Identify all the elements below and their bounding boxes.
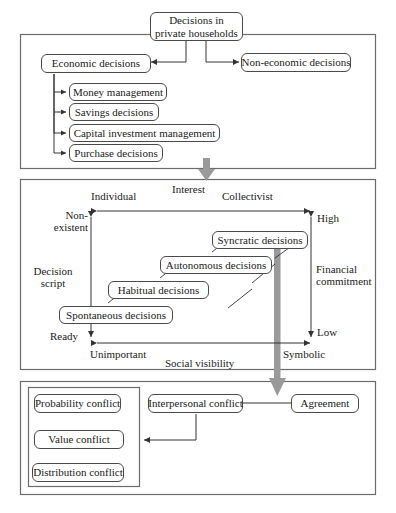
node-label: Spontaneous decisions [66, 309, 166, 321]
node-money-management[interactable]: Money management [69, 83, 167, 101]
node-label: Value conflict [48, 433, 109, 445]
axis-tick-non-existent: Non- existent [44, 209, 88, 233]
node-distribution-conflict[interactable]: Distribution conflict [32, 463, 124, 482]
node-label: Purchase decisions [74, 147, 157, 159]
axis-label-decision-script: Decision script [20, 265, 86, 289]
node-label: Savings decisions [75, 106, 154, 118]
diagram-figure: Decisions in private households Economic… [0, 0, 396, 513]
node-spontaneous-decisions[interactable]: Spontaneous decisions [59, 306, 173, 324]
node-label: Autonomous decisions [166, 259, 267, 271]
node-habitual-decisions[interactable]: Habitual decisions [108, 281, 209, 299]
node-label: Probability conflict [35, 397, 120, 409]
node-economic-decisions[interactable]: Economic decisions [41, 54, 151, 73]
axis-tick-non-existent-line1: Non- [65, 209, 88, 221]
axis-tick-symbolic: Symbolic [283, 348, 325, 360]
node-label: Agreement [301, 397, 350, 409]
axis-label-financial-commitment-line2: commitment [316, 275, 372, 287]
node-label: Syncratic decisions [217, 234, 302, 246]
axis-label-decision-script-line1: Decision [33, 265, 72, 277]
node-label: Habitual decisions [118, 284, 200, 296]
node-label: Money management [73, 86, 163, 98]
axis-tick-high: High [317, 212, 339, 224]
axis-tick-ready: Ready [50, 330, 78, 342]
node-interpersonal-conflict[interactable]: Interpersonal conflict [148, 394, 243, 413]
node-capital-investment-management[interactable]: Capital investment management [69, 124, 220, 142]
node-label: Decisions in private households [155, 14, 238, 39]
node-label: Non-economic decisions [241, 56, 350, 68]
axis-tick-low: Low [317, 326, 337, 338]
node-label: Economic decisions [52, 57, 140, 69]
axis-tick-individual: Individual [91, 190, 136, 202]
axis-label-interest: Interest [172, 183, 205, 195]
node-agreement[interactable]: Agreement [291, 394, 359, 413]
axis-label-financial-commitment-line1: Financial [316, 263, 357, 275]
node-label: Distribution conflict [33, 466, 123, 478]
axis-label-social-visibility: Social visibility [165, 357, 234, 369]
node-label: Interpersonal conflict [148, 397, 242, 409]
node-value-conflict[interactable]: Value conflict [34, 430, 124, 449]
axis-tick-non-existent-line2: existent [54, 221, 88, 233]
node-savings-decisions[interactable]: Savings decisions [69, 103, 159, 121]
node-purchase-decisions[interactable]: Purchase decisions [69, 144, 163, 162]
node-syncratic-decisions[interactable]: Syncratic decisions [212, 231, 308, 249]
axis-tick-unimportant: Unimportant [90, 348, 146, 360]
node-autonomous-decisions[interactable]: Autonomous decisions [160, 256, 272, 274]
axis-label-financial-commitment: Financial commitment [316, 263, 392, 287]
node-probability-conflict[interactable]: Probability conflict [34, 394, 121, 413]
flow-arrow-top-to-middle [198, 158, 215, 181]
node-label: Capital investment management [74, 127, 216, 139]
axis-tick-collectivist: Collectivist [222, 190, 273, 202]
node-decisions-in-private-households[interactable]: Decisions in private households [150, 12, 243, 41]
axis-label-decision-script-line2: script [41, 277, 65, 289]
node-non-economic-decisions[interactable]: Non-economic decisions [241, 53, 351, 72]
